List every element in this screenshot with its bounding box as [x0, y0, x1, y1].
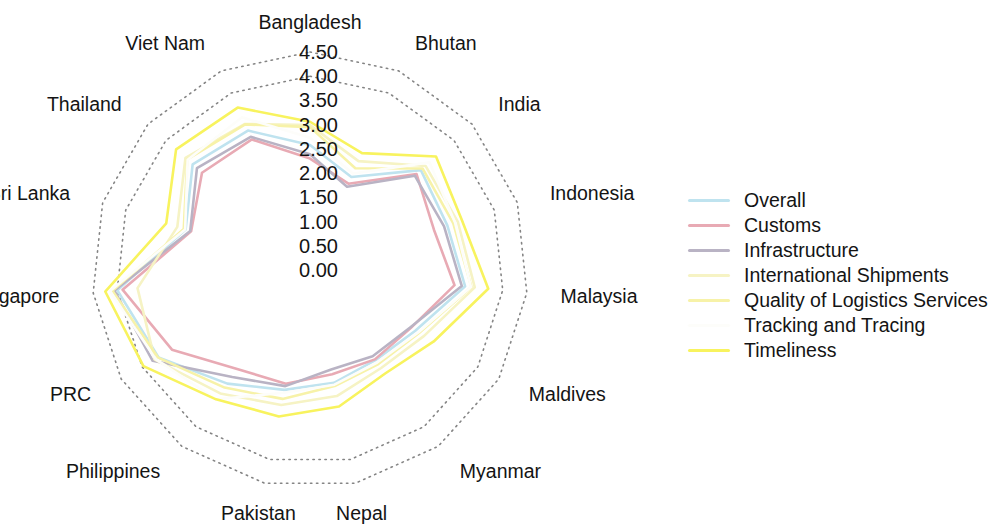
chart-legend: OverallCustomsInfrastructureInternationa… [688, 188, 980, 363]
axis-label-maldives: Maldives [529, 383, 606, 405]
axis-label-thailand: Thailand [47, 93, 122, 115]
axis-label-philippines: Philippines [66, 460, 161, 482]
axis-label-myanmar: Myanmar [460, 460, 542, 482]
axis-label-singapore: Singapore [0, 285, 59, 307]
axis-label-sri-lanka: Sri Lanka [0, 182, 70, 204]
legend-item-timeliness[interactable]: Timeliness [688, 338, 980, 363]
legend-swatch-icon [688, 224, 730, 227]
legend-swatch-icon [688, 199, 730, 202]
r-tick-2-00: 2.00 [299, 162, 338, 184]
axis-label-bangladesh: Bangladesh [258, 11, 361, 33]
r-tick-4-50: 4.50 [299, 41, 338, 63]
legend-swatch-icon [688, 324, 730, 327]
series-tracking-and-tracing [110, 117, 471, 399]
axis-label-malaysia: Malaysia [561, 285, 638, 307]
legend-item-customs[interactable]: Customs [688, 213, 980, 238]
axis-label-prc: PRC [50, 383, 91, 405]
axis-label-indonesia: Indonesia [550, 182, 635, 204]
legend-label: International Shipments [744, 263, 949, 288]
legend-swatch-icon [688, 299, 730, 302]
r-tick-0-50: 0.50 [299, 235, 338, 257]
axis-label-india: India [498, 93, 540, 115]
legend-label: Timeliness [744, 338, 836, 363]
legend-swatch-icon [688, 349, 730, 352]
r-tick-2-50: 2.50 [299, 138, 338, 160]
legend-label: Overall [744, 188, 806, 213]
r-tick-3-00: 3.00 [299, 114, 338, 136]
r-tick-4-00: 4.00 [299, 65, 338, 87]
legend-swatch-icon [688, 274, 730, 277]
axis-label-pakistan: Pakistan [221, 502, 296, 524]
legend-label: Infrastructure [744, 238, 859, 263]
legend-item-quality-of-logistics-services[interactable]: Quality of Logistics Services [688, 288, 980, 313]
axis-label-bhutan: Bhutan [415, 32, 477, 54]
r-tick-1-50: 1.50 [299, 186, 338, 208]
legend-label: Tracking and Tracing [744, 313, 925, 338]
legend-item-tracking-and-tracing[interactable]: Tracking and Tracing [688, 313, 980, 338]
r-tick-0-00: 0.00 [299, 259, 338, 281]
legend-label: Customs [744, 213, 821, 238]
legend-swatch-icon [688, 249, 730, 252]
legend-item-international-shipments[interactable]: International Shipments [688, 263, 980, 288]
series-lines [105, 108, 488, 417]
axis-label-nepal: Nepal [336, 502, 387, 524]
legend-item-infrastructure[interactable]: Infrastructure [688, 238, 980, 263]
r-tick-1-00: 1.00 [299, 211, 338, 233]
legend-item-overall[interactable]: Overall [688, 188, 980, 213]
axis-label-viet-nam: Viet Nam [125, 32, 205, 54]
legend-label: Quality of Logistics Services [744, 288, 988, 313]
r-tick-3-50: 3.50 [299, 89, 338, 111]
